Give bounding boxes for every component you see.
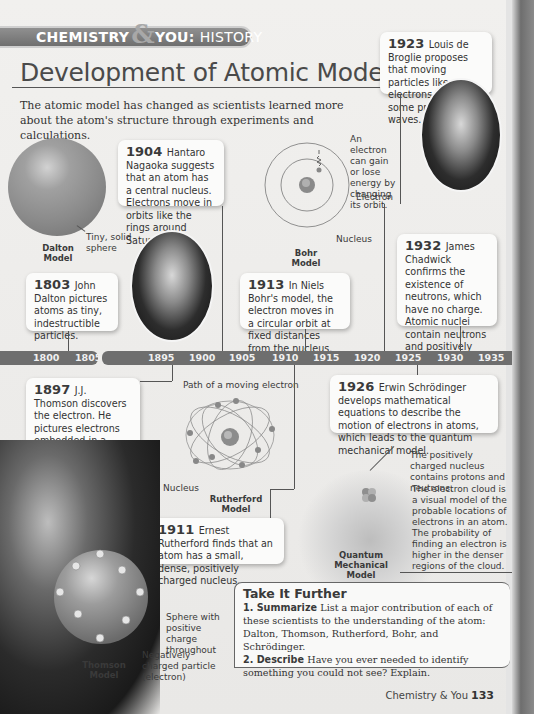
footer-text: Chemistry & You	[385, 690, 468, 701]
rutherford-path-label: Path of a moving electron	[183, 380, 299, 391]
quantum-model-name: Quantum Mechanical Model	[322, 550, 400, 580]
divider-line	[270, 489, 271, 519]
event-card-1803: 1803 John Dalton pictures atoms as tiny,…	[26, 273, 118, 331]
event-card-1897: 1897 J.J. Thomson discovers the electron…	[26, 378, 140, 448]
question-2: 2. Describe Have you ever needed to iden…	[243, 653, 502, 679]
event-year: 1932	[405, 238, 446, 253]
timeline-tick: 1895	[148, 351, 174, 365]
ampersand-icon: &	[131, 21, 155, 47]
thomson-model-name: Thomson Model	[80, 660, 128, 680]
event-year: 1911	[158, 522, 199, 537]
event-year: 1904	[126, 144, 167, 159]
banner-you: YOU:	[155, 29, 195, 45]
timeline-tick: 1900	[189, 351, 215, 365]
rutherford-model-diagram	[180, 395, 280, 475]
bohr-model-name: Bohr Model	[286, 248, 326, 268]
event-year: 1926	[338, 379, 379, 394]
bohr-model-diagram	[262, 140, 352, 230]
textbook-page: CHEMISTRY & YOU: HISTORY Development of …	[0, 0, 534, 714]
connector-line	[140, 381, 172, 382]
event-card-1932: 1932 James Chadwick confirms the existen…	[397, 234, 497, 326]
quantum-cloud-label: The electron cloud is a visual model of …	[412, 484, 512, 572]
divider-line	[400, 572, 512, 573]
event-card-1926: 1926 Erwin Schrödinger develops mathemat…	[330, 375, 498, 433]
bohr-electron-label: Electron	[356, 192, 393, 203]
timeline-segment-1800s: 1800 1805	[0, 351, 98, 365]
timeline-tick: 1805	[75, 351, 101, 365]
event-card-1913: 1913 In Niels Bohr's model, the electron…	[240, 273, 350, 329]
page-number: 133	[471, 689, 494, 702]
timeline-tick: 1910	[272, 351, 298, 365]
nagaoka-portrait	[130, 230, 214, 342]
banner-section: HISTORY	[200, 29, 263, 45]
rutherford-nucleus-label: Nucleus	[163, 483, 199, 494]
section-banner: CHEMISTRY & YOU: HISTORY	[0, 26, 252, 48]
timeline-tick: 1925	[395, 351, 421, 365]
bohr-nucleus-label: Nucleus	[336, 234, 372, 245]
divider-line	[270, 489, 294, 490]
event-text: James Chadwick confirms the existence of…	[405, 241, 487, 365]
timeline-segment-1900s: 1895 1900 1905 1910 1915 1920 1925 1930 …	[102, 351, 512, 365]
thomson-model-diagram	[52, 548, 150, 646]
timeline-tick: 1935	[478, 351, 504, 365]
timeline-tick: 1905	[229, 351, 255, 365]
timeline-bar: 1800 1805 1895 1900 1905 1910 1915 1920 …	[0, 351, 512, 365]
intro-paragraph: The atomic model has changed as scientis…	[20, 98, 360, 143]
event-year: 1897	[34, 382, 75, 397]
question-2-label: 2. Describe	[243, 654, 307, 665]
event-card-1911: 1911 Ernest Rutherford finds that an ato…	[150, 518, 284, 564]
take-it-further-heading: Take It Further	[243, 587, 502, 600]
connector-line	[68, 331, 69, 351]
take-it-further-box: Take It Further 1. Summarize List a majo…	[234, 582, 510, 668]
question-1-label: 1. Summarize	[243, 602, 320, 613]
page-binding-edge	[512, 0, 534, 714]
connector-line	[384, 204, 385, 351]
thomson-particle-label: Negatively charged particle (electron)	[142, 650, 222, 683]
question-1: 1. Summarize List a major contribution o…	[243, 601, 502, 653]
connector-line	[305, 329, 306, 351]
dalton-sphere-illustration	[8, 138, 106, 236]
page-footer: Chemistry & You133	[385, 689, 494, 702]
timeline-tick: 1920	[354, 351, 380, 365]
connector-line	[222, 206, 223, 351]
event-card-1904: 1904 Hantaro Nagaoka suggests that an at…	[118, 140, 224, 206]
rutherford-model-name: Rutherford Model	[208, 494, 264, 514]
timeline-tick: 1915	[313, 351, 339, 365]
event-year: 1913	[248, 277, 289, 292]
banner-chemistry: CHEMISTRY	[36, 29, 129, 45]
event-year: 1803	[34, 277, 75, 292]
connector-line	[400, 94, 401, 204]
dalton-model-name: Dalton Model	[36, 243, 80, 263]
timeline-tick: 1800	[33, 351, 59, 365]
connector-line	[460, 326, 461, 351]
connector-line	[172, 365, 173, 381]
quantum-nucleus-icon	[361, 486, 377, 504]
divider-line	[294, 365, 295, 489]
event-year: 1923	[388, 36, 429, 51]
timeline-tick: 1930	[437, 351, 463, 365]
de-broglie-portrait	[420, 78, 502, 192]
